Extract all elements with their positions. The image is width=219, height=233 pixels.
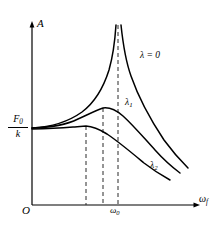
curve-lambda-zero-left (32, 25, 116, 128)
x-axis-label-subscript: f (206, 198, 208, 206)
x-tick-subscript: 0 (116, 209, 119, 216)
origin-label: O (22, 205, 30, 216)
curve-label-lambda-two: λ2 (150, 161, 158, 172)
curve-lambda-zero-right (121, 25, 188, 168)
y-level-label-f0-over-k: F0 k (7, 114, 29, 139)
y-level-numerator: F0 (7, 114, 29, 127)
x-axis-label: ωf (199, 194, 208, 206)
y-level-numerator-subscript: 0 (19, 118, 23, 126)
y-level-denominator: k (7, 128, 29, 139)
curve-label-lambda-zero: λ = 0 (140, 51, 160, 61)
y-axis-label: A (37, 18, 44, 29)
curve-label-lambda-two-subscript: 2 (154, 164, 157, 171)
curve-label-lambda-one: λ1 (125, 98, 133, 109)
x-tick-label-omega-zero: ω0 (110, 206, 120, 216)
resonance-amplitude-figure: A ωf O ω0 F0 k λ = 0 λ1 λ2 (0, 0, 219, 233)
plot-canvas (0, 0, 219, 233)
curve-label-lambda-one-subscript: 1 (129, 101, 132, 108)
y-axis-arrowhead (30, 21, 35, 28)
curve-lambda-two (32, 126, 170, 180)
x-axis-label-symbol: ω (199, 193, 206, 204)
